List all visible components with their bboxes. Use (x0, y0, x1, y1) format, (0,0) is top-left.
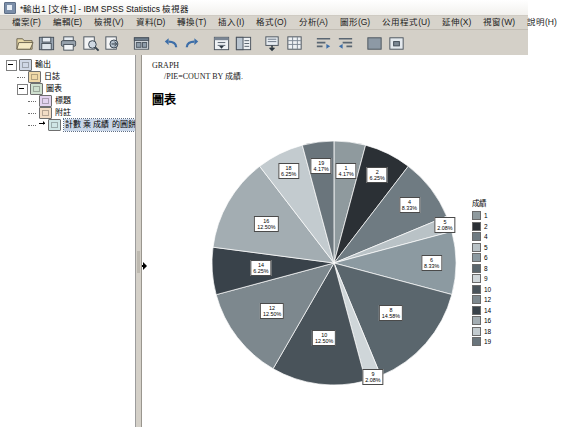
pie-slice-label: 1212.50% (260, 303, 284, 319)
outline-pane[interactable]: 輸出日誌圖表標題附註計數 乘 成績 的圓餅圖 (0, 55, 136, 427)
slice-label-percent: 8.33% (424, 263, 439, 269)
pie-slice-label: 26.25% (367, 167, 388, 183)
legend-swatch-icon (472, 327, 481, 336)
legend-entry: 9 (472, 274, 520, 283)
save-icon[interactable] (36, 33, 56, 53)
menu-item-7[interactable]: 分析(A) (293, 16, 334, 29)
log-icon (28, 71, 41, 83)
outline-node-5[interactable]: 計數 乘 成績 的圓餅圖 (6, 119, 135, 131)
goto-case-icon[interactable] (211, 33, 231, 53)
spss-viewer-icon (4, 2, 16, 14)
pie-slice-label: 14.17% (335, 163, 356, 179)
outline-node-1[interactable]: 日誌 (6, 71, 135, 83)
legend-entry: 1 (472, 211, 520, 220)
legend-swatch-icon (472, 285, 481, 294)
menu-item-2[interactable]: 檢視(V) (88, 16, 129, 29)
tree-connector-icon (17, 73, 26, 82)
legend-entry: 14 (472, 306, 520, 315)
print-preview-icon[interactable] (80, 33, 100, 53)
outline-tree[interactable]: 輸出日誌圖表標題附註計數 乘 成績 的圓餅圖 (6, 59, 135, 131)
legend-label: 10 (484, 285, 491, 294)
outline-node-0[interactable]: 輸出 (6, 59, 135, 71)
title-bar: *輸出1 [文件1] - IBM SPSS Statistics 檢視器 (0, 0, 528, 16)
menu-item-8[interactable]: 圖形(G) (334, 16, 376, 29)
menu-item-4[interactable]: 轉換(T) (171, 16, 212, 29)
slice-label-percent: 8.33% (402, 205, 417, 211)
pie-slice-label: 1612.50% (254, 216, 278, 232)
menu-item-12[interactable]: 說明(H) (521, 16, 561, 29)
menu-item-11[interactable]: 視窗(W) (477, 16, 521, 29)
legend-title: 成績 (472, 197, 520, 208)
menu-item-10[interactable]: 延伸(X) (436, 16, 477, 29)
tree-connector-icon (28, 121, 37, 130)
menu-item-5[interactable]: 插入(I) (212, 16, 250, 29)
legend-entries: 1245689101214161819 (472, 211, 520, 346)
slice-label-percent: 6.25% (281, 171, 296, 177)
insert-table-icon[interactable] (284, 33, 304, 53)
print-icon[interactable] (58, 33, 78, 53)
legend-label: 5 (484, 243, 488, 252)
legend-swatch-icon (472, 222, 481, 231)
legend-label: 16 (484, 316, 491, 325)
undo-icon[interactable] (160, 33, 180, 53)
legend-swatch-icon (472, 253, 481, 262)
collapse-icon[interactable] (364, 33, 384, 53)
insert-footnote-icon[interactable] (262, 33, 282, 53)
tree-expander-icon[interactable] (17, 84, 28, 95)
syntax-line-1: GRAPH (152, 60, 528, 71)
legend-label: 2 (484, 222, 488, 231)
legend-label: 18 (484, 327, 491, 336)
menu-item-3[interactable]: 資料(D) (130, 16, 172, 29)
pie-slice-label: 92.08% (362, 369, 383, 385)
slice-label-percent: 2.08% (437, 225, 452, 231)
outline-node-label: 輸出 (35, 59, 51, 71)
legend-entry: 18 (472, 327, 520, 336)
outline-node-2[interactable]: 圖表 (6, 83, 135, 95)
recall-dialog-icon[interactable] (131, 33, 151, 53)
outline-node-3[interactable]: 標題 (6, 95, 135, 107)
pie-chart-svg[interactable] (142, 115, 528, 415)
menu-item-1[interactable]: 編輯(E) (47, 16, 88, 29)
legend-label: 8 (484, 264, 488, 273)
legend-swatch-icon (472, 337, 481, 346)
toolbar-separator (357, 34, 362, 52)
outline-node-label: 標題 (55, 95, 71, 107)
toolbar-separator (204, 34, 209, 52)
expand-icon[interactable] (386, 33, 406, 53)
outline-node-label: 附註 (55, 107, 71, 119)
legend-label: 9 (484, 274, 488, 283)
legend-entry: 5 (472, 243, 520, 252)
viewer-content: 輸出日誌圖表標題附註計數 乘 成績 的圓餅圖 GRAPH /PIE=COUNT … (0, 55, 528, 427)
promote-icon[interactable] (313, 33, 333, 53)
menu-item-0[interactable]: 檔案(F) (6, 16, 47, 29)
outline-node-label: 計數 乘 成績 的圓餅圖 (64, 119, 136, 131)
legend-swatch-icon (472, 295, 481, 304)
pie-slice-label: 146.25% (250, 260, 271, 276)
section-title: 圖表 (142, 82, 528, 108)
legend-entry: 2 (472, 222, 520, 231)
tree-expander-icon[interactable] (6, 60, 17, 71)
open-file-icon[interactable] (14, 33, 34, 53)
pie-slice-label: 48.33% (399, 197, 420, 213)
legend-entry: 8 (472, 264, 520, 273)
legend-swatch-icon (472, 211, 481, 220)
export-icon[interactable] (102, 33, 122, 53)
demote-icon[interactable] (335, 33, 355, 53)
menu-item-6[interactable]: 格式(O) (250, 16, 292, 29)
legend-swatch-icon (472, 274, 481, 283)
slice-label-percent: 4.17% (338, 171, 353, 177)
redo-icon[interactable] (182, 33, 202, 53)
goto-variable-icon[interactable] (233, 33, 253, 53)
slice-label-percent: 12.50% (263, 311, 281, 317)
menu-item-9[interactable]: 公用程式(U) (376, 16, 436, 29)
outline-node-4[interactable]: 附註 (6, 107, 135, 119)
pie-slice-label: 186.25% (278, 163, 299, 179)
legend-entry: 4 (472, 232, 520, 241)
legend-label: 12 (484, 295, 491, 304)
pie-slice-label: 194.17% (311, 158, 332, 174)
pie-chart-object[interactable]: 14.17%26.25%48.33%52.08%68.33%814.58%92.… (142, 115, 528, 427)
pie-slice-label: 68.33% (421, 255, 442, 271)
output-pane[interactable]: GRAPH /PIE=COUNT BY 成績. 圖表 14.17%26.25%4… (142, 55, 528, 427)
output-icon (19, 59, 32, 71)
